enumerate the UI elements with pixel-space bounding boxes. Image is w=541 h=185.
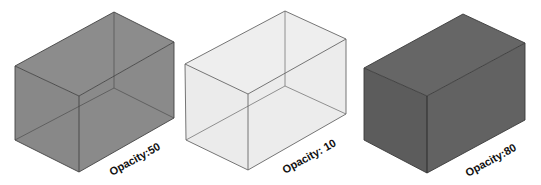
box-opacity-50: Opacity:50 xyxy=(15,12,174,178)
opacity-comparison-figure: Opacity:50 Opacity: 10 Opacity:80 xyxy=(0,0,541,185)
box-opacity-80: Opacity:80 xyxy=(364,14,525,179)
box-opacity-10: Opacity: 10 xyxy=(185,11,346,176)
